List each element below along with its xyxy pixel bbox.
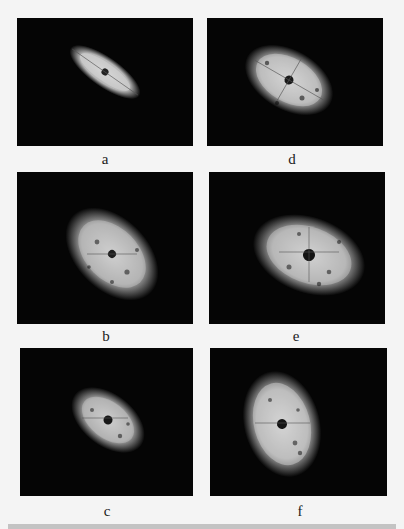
panel-label-f: f [280, 503, 320, 519]
scatter-pattern-b [17, 172, 193, 324]
scatter-pattern-d [207, 18, 383, 146]
panel-d [207, 18, 383, 146]
panel-label-e: e [276, 328, 316, 344]
panel-label-a: a [85, 151, 125, 167]
panel-e [209, 172, 385, 324]
panel-label-d: d [272, 151, 312, 167]
panel-b [17, 172, 193, 324]
scatter-pattern-e [209, 172, 385, 324]
scatter-pattern-f [210, 348, 387, 496]
panel-label-b: b [86, 328, 126, 344]
panel-f [210, 348, 387, 496]
scatter-pattern-a [17, 18, 193, 146]
figure-caption-cropped [0, 522, 404, 529]
panel-label-c: c [87, 503, 127, 519]
panel-a [17, 18, 193, 146]
panel-c [20, 348, 193, 496]
scatter-pattern-c [20, 348, 193, 496]
